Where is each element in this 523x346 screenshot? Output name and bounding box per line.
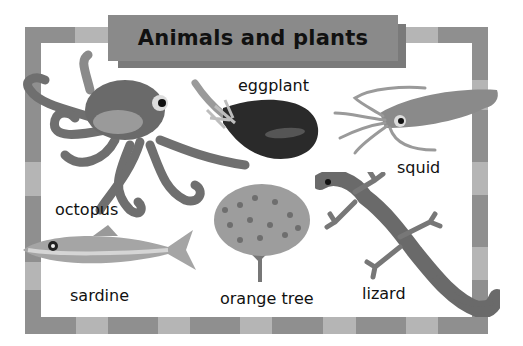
border-segment [240,317,272,334]
border-segment [76,317,108,334]
border-segment [406,27,438,43]
label-lizard: lizard [362,284,406,303]
orange-tree-icon [210,180,315,285]
label-orange-tree: orange tree [220,289,314,308]
border-segment [406,317,438,334]
lizard-icon [315,172,500,317]
border-segment [158,317,190,334]
sardine-icon [18,222,198,277]
squid-icon [325,78,500,158]
label-sardine: sardine [70,286,129,305]
label-eggplant: eggplant [238,76,309,95]
page-title: Animals and plants [138,26,368,50]
border-segment [323,317,356,334]
label-octopus: octopus [55,200,118,219]
border-segment [75,27,108,43]
